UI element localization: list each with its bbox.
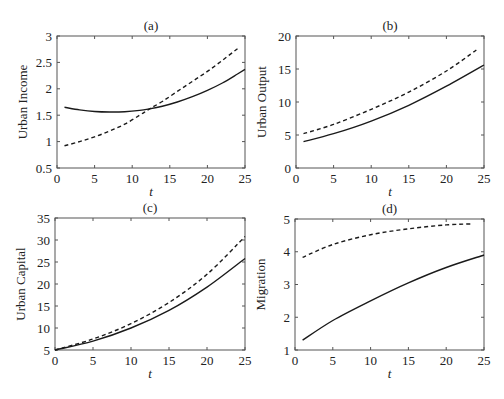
series-line-solid [55, 259, 245, 351]
y-tick-label: 5 [285, 128, 292, 143]
x-tick-label: 0 [292, 353, 299, 368]
x-axis-label: t [148, 366, 152, 381]
y-tick-label: 4 [284, 244, 291, 259]
y-tick-label: 5 [284, 212, 291, 227]
y-axis-label: Urban Income [15, 64, 30, 139]
y-tick-label: 5 [44, 343, 51, 358]
x-tick-label: 25 [239, 171, 252, 186]
chart-title: (a) [144, 18, 158, 33]
chart-panel-d: (d)051015202512345tMigration [253, 201, 491, 381]
y-axis-label: Migration [253, 258, 268, 310]
figure-canvas: (a)05101520250.511.522.53tUrban Income(b… [0, 0, 504, 399]
y-tick-label: 20 [37, 277, 50, 292]
x-tick-label: 25 [478, 171, 491, 186]
series-line-dashed [65, 49, 238, 146]
x-axis-label: t [388, 366, 392, 381]
x-tick-label: 20 [440, 353, 453, 368]
x-tick-label: 10 [365, 171, 378, 186]
chart-title: (c) [143, 200, 157, 215]
y-tick-label: 20 [278, 29, 291, 44]
chart-title: (b) [382, 18, 397, 33]
x-tick-label: 15 [163, 353, 176, 368]
x-tick-label: 15 [402, 171, 415, 186]
plot-frame [296, 36, 484, 168]
series-line-solid [303, 255, 484, 340]
chart-panel-b: (b)051015202505101520tUrban Output [254, 18, 491, 199]
chart-title: (d) [382, 201, 397, 216]
x-tick-label: 0 [54, 171, 61, 186]
series-line-dashed [303, 224, 473, 257]
x-axis-label: t [149, 184, 153, 199]
x-axis-label: t [388, 184, 392, 199]
x-tick-label: 20 [201, 353, 214, 368]
plot-frame [295, 219, 484, 350]
y-tick-label: 1 [284, 343, 291, 358]
figure: (a)05101520250.511.522.53tUrban Income(b… [0, 0, 504, 399]
x-tick-label: 10 [125, 353, 138, 368]
series-line-solid [304, 65, 485, 142]
y-tick-label: 35 [37, 211, 50, 226]
y-tick-label: 15 [278, 62, 291, 77]
y-tick-label: 0.5 [36, 161, 52, 176]
x-tick-label: 10 [126, 171, 139, 186]
y-tick-label: 25 [37, 255, 50, 270]
y-tick-label: 3 [284, 277, 291, 292]
y-tick-label: 10 [37, 321, 50, 336]
y-tick-label: 0 [285, 161, 292, 176]
y-tick-label: 1 [46, 134, 53, 149]
chart-panel-a: (a)05101520250.511.522.53tUrban Income [15, 18, 252, 199]
y-tick-label: 1.5 [36, 108, 52, 123]
x-tick-label: 0 [293, 171, 300, 186]
x-tick-label: 25 [239, 353, 252, 368]
chart-panel-c: (c)05101520255101520253035tUrban Capital [13, 200, 252, 381]
y-tick-label: 30 [37, 233, 50, 248]
y-axis-label: Urban Capital [13, 247, 28, 321]
y-tick-label: 10 [278, 95, 291, 110]
plot-frame [57, 36, 245, 168]
x-tick-label: 15 [402, 353, 415, 368]
y-axis-label: Urban Output [254, 66, 269, 138]
plot-frame [55, 218, 245, 350]
series-line-dashed [304, 50, 477, 134]
y-tick-label: 3 [46, 29, 53, 44]
y-tick-label: 2 [46, 81, 53, 96]
x-tick-label: 25 [478, 353, 491, 368]
x-tick-label: 5 [90, 353, 97, 368]
x-tick-label: 5 [330, 353, 337, 368]
x-tick-label: 5 [330, 171, 337, 186]
x-tick-label: 20 [440, 171, 453, 186]
x-tick-label: 20 [201, 171, 214, 186]
x-tick-label: 0 [52, 353, 59, 368]
x-tick-label: 15 [163, 171, 176, 186]
y-tick-label: 2.5 [36, 55, 52, 70]
x-tick-label: 5 [91, 171, 98, 186]
series-line-dashed [55, 237, 245, 351]
x-tick-label: 10 [364, 353, 377, 368]
y-tick-label: 15 [37, 299, 50, 314]
y-tick-label: 2 [284, 310, 291, 325]
